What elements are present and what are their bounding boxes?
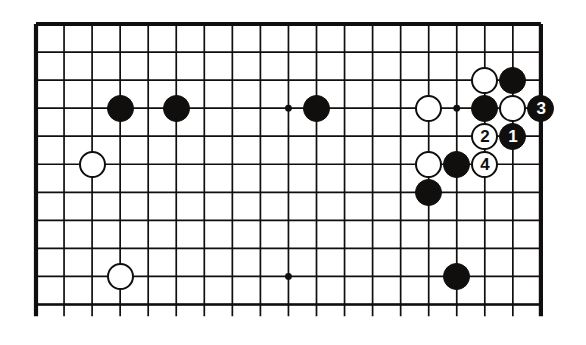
black-stone-c14r6[interactable] [415, 179, 442, 206]
go-board-diagram: 3214 [0, 0, 586, 345]
black-stone-c10r3[interactable] [303, 95, 330, 122]
white-stone-c14r3[interactable] [415, 95, 442, 122]
black-stone-c17r2[interactable] [499, 67, 526, 94]
black-stone-move-3-label: 3 [536, 99, 545, 116]
hoshi-upper-right [453, 105, 460, 112]
white-stone-c16r2[interactable] [471, 67, 498, 94]
black-stone-c16r3[interactable] [471, 95, 498, 122]
white-stone-move-4[interactable]: 4 [471, 151, 498, 178]
black-stone-move-3[interactable]: 3 [527, 95, 554, 122]
white-stone-move-2-label: 2 [480, 127, 489, 144]
black-stone-c15r5[interactable] [443, 151, 470, 178]
black-stone-c3r3[interactable] [107, 95, 134, 122]
black-stone-c5r3[interactable] [163, 95, 190, 122]
black-stone-c15r9[interactable] [443, 263, 470, 290]
white-stone-c17r3[interactable] [499, 95, 526, 122]
white-stone-c2r5[interactable] [79, 151, 106, 178]
white-stone-move-2[interactable]: 2 [471, 123, 498, 150]
hoshi-lower-middle [285, 273, 292, 280]
white-stone-move-4-label: 4 [480, 155, 489, 172]
black-stone-move-1-label: 1 [508, 127, 517, 144]
white-stone-c14r5[interactable] [415, 151, 442, 178]
hoshi-upper-middle [285, 105, 292, 112]
white-stone-c3r9[interactable] [107, 263, 134, 290]
black-stone-move-1[interactable]: 1 [499, 123, 526, 150]
